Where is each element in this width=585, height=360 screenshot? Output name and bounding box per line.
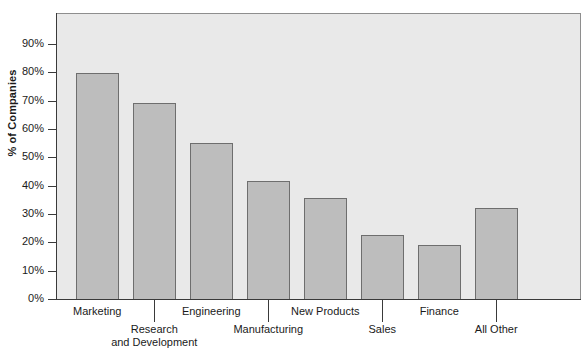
y-axis-tick <box>48 44 56 45</box>
x-axis-label-leader-line <box>496 300 497 322</box>
x-axis-line <box>56 299 581 300</box>
bar <box>361 235 404 300</box>
y-axis-label: 80% <box>0 65 44 77</box>
bar-chart: % of Companies 0%10%20%30%40%50%60%70%80… <box>0 0 585 360</box>
bar <box>418 245 461 300</box>
y-axis-label: 0% <box>0 292 44 304</box>
bar <box>133 103 176 300</box>
y-axis-tick <box>48 299 56 300</box>
y-axis-tick <box>48 101 56 102</box>
bar <box>304 198 347 300</box>
x-axis-label: Finance <box>364 305 514 318</box>
y-axis-label: 70% <box>0 94 44 106</box>
bar <box>76 73 119 300</box>
y-axis-label: 20% <box>0 235 44 247</box>
bar <box>247 181 290 300</box>
plot-area <box>57 13 581 299</box>
y-axis-tick <box>48 242 56 243</box>
bar <box>190 143 233 300</box>
y-axis-tick <box>48 271 56 272</box>
y-axis-tick <box>48 72 56 73</box>
y-axis-label: 90% <box>0 37 44 49</box>
y-axis-tick <box>48 186 56 187</box>
y-axis-tick <box>48 157 56 158</box>
y-axis-line <box>56 13 57 300</box>
x-axis-label: All Other <box>421 323 571 336</box>
y-axis-label: 40% <box>0 179 44 191</box>
y-axis-label: 60% <box>0 122 44 134</box>
y-axis-label: 30% <box>0 207 44 219</box>
y-axis-label: 50% <box>0 150 44 162</box>
y-axis-tick <box>48 129 56 130</box>
bar <box>475 208 518 300</box>
y-axis-tick <box>48 214 56 215</box>
y-axis-label: 10% <box>0 264 44 276</box>
